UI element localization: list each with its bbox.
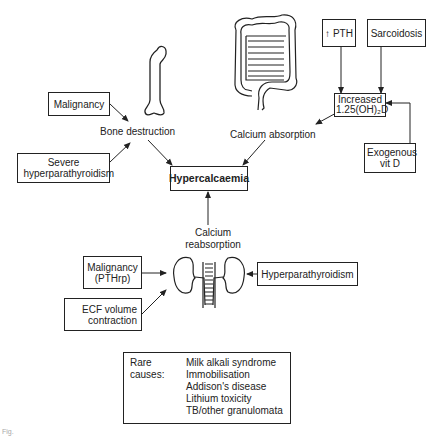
cause-label: Severe hyperparathyroidism (24, 157, 104, 179)
bone-icon (145, 47, 166, 116)
cause-label: Hyperparathyroidism (261, 269, 353, 280)
intestine-icon (235, 15, 297, 110)
rare-cause-item: Immobilisation (186, 369, 283, 381)
figure-caption: Fig. (2, 428, 14, 435)
gut-cause-pth: ↑ PTH (322, 19, 356, 47)
cause-label: Malignancy (54, 99, 105, 110)
cause-label: ↑ PTH (325, 28, 353, 39)
cause-label: Sarcoidosis (371, 28, 423, 39)
kidney-cause-malignancy-pthrp: Malignancy (PTHrp) (83, 256, 142, 289)
kidney-icon (174, 257, 245, 308)
calcium-absorption-label: Calcium absorption (230, 129, 316, 141)
cause-label: ECF volume contraction (81, 304, 137, 326)
kidney-cause-hyperparathyroidism: Hyperparathyroidism (257, 262, 358, 286)
gut-cause-exogenous-vit-d: Exogenous vit D (364, 143, 416, 173)
gut-cause-sarcoidosis: Sarcoidosis (367, 19, 426, 47)
bone-cause-severe-hyperparathyroidism: Severe hyperparathyroidism (17, 153, 110, 183)
rare-cause-item: Milk alkali syndrome (186, 357, 283, 369)
rare-cause-item: TB/other granulomata (186, 405, 283, 417)
kidney-cause-ecf-volume-contraction: ECF volume contraction (64, 298, 142, 331)
cause-label: Malignancy (PTHrp) (86, 262, 140, 284)
hypercalcaemia-box: Hypercalcaemia (170, 166, 248, 191)
rare-causes-heading: Rare causes: (130, 357, 186, 419)
bone-destruction-label: Bone destruction (100, 126, 175, 138)
bone-cause-malignancy: Malignancy (48, 92, 110, 116)
rare-causes-box: Rare causes: Milk alkali syndrome Immobi… (123, 352, 291, 424)
increased-vitamin-d-box: Increased 1.25(OH)₂D (334, 93, 386, 117)
rare-cause-item: Lithium toxicity (186, 393, 283, 405)
cause-label: Exogenous vit D (367, 147, 413, 169)
rare-cause-item: Addison's disease (186, 381, 283, 393)
hypercalcaemia-label: Hypercalcaemia (169, 173, 249, 184)
rare-causes-list: Milk alkali syndrome Immobilisation Addi… (186, 357, 283, 419)
mediator-label: Increased 1.25(OH)₂D (336, 95, 384, 115)
calcium-reabsorption-label: Calcium reabsorption (185, 227, 241, 251)
